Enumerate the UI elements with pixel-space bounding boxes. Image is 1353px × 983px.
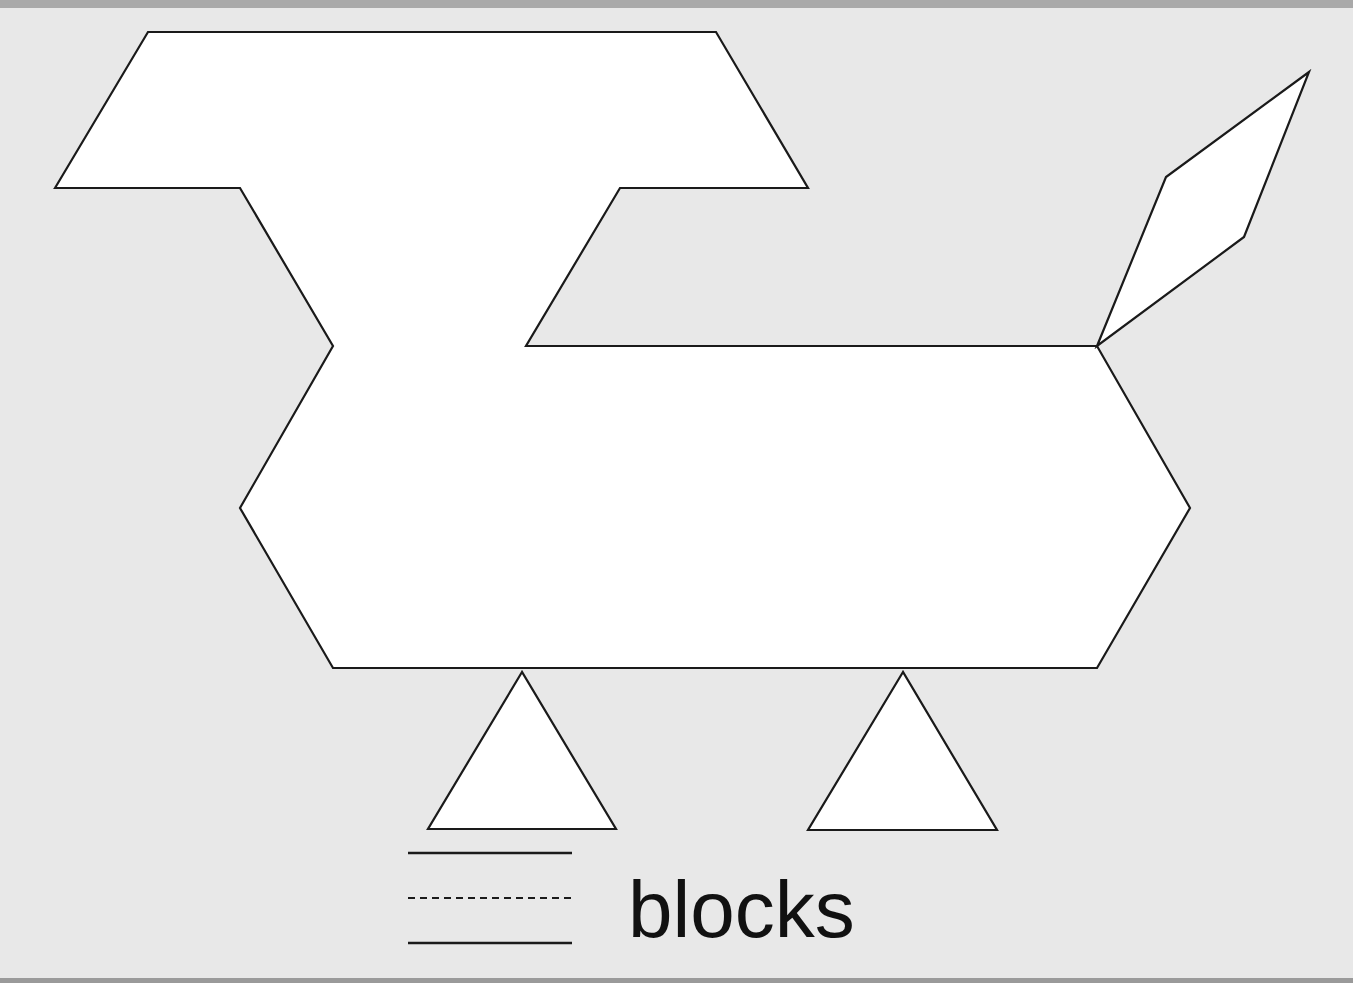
tail-rhombus [1097,72,1309,346]
pattern-block-figure [0,0,1353,983]
bird-body-outline [55,32,1190,668]
left-leg-triangle [428,672,616,829]
bottom-bar [0,978,1353,983]
right-leg-triangle [808,672,997,830]
answer-label: blocks [628,870,855,950]
